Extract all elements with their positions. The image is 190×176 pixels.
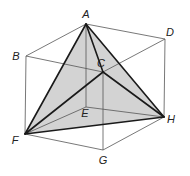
cube-edge-bf	[25, 56, 26, 134]
vertex-label-a: A	[81, 8, 89, 20]
cube-edge-ad	[86, 24, 165, 39]
vertex-label-f: F	[12, 134, 20, 146]
vertex-label-h: H	[167, 113, 175, 125]
cube-edge-dh	[164, 39, 165, 117]
vertex-label-g: G	[99, 154, 108, 166]
cube-tetrahedron-diagram: A B C D E F G H	[0, 0, 190, 176]
cube-edge-fg	[25, 134, 103, 150]
vertex-label-b: B	[12, 50, 19, 62]
vertex-label-c: C	[97, 57, 105, 69]
vertex-label-d: D	[166, 26, 174, 38]
vertex-label-e: E	[81, 107, 89, 119]
